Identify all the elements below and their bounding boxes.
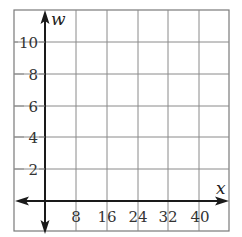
x-tick-32: 32: [158, 208, 177, 226]
x-tick-16: 16: [97, 208, 116, 226]
horizontal-grid-lines: [14, 42, 229, 169]
x-axis-label: x: [216, 178, 226, 198]
y-tick-8: 8: [28, 66, 38, 84]
vertical-grid-lines: [76, 10, 199, 231]
y-tick-10: 10: [19, 34, 38, 52]
x-tick-labels: 8 16 24 32 40: [71, 208, 209, 226]
plot-border: [14, 10, 229, 231]
x-axis: [15, 197, 229, 206]
y-tick-2: 2: [28, 161, 38, 179]
x-tick-24: 24: [128, 208, 147, 226]
y-tick-6: 6: [28, 98, 38, 116]
x-tick-40: 40: [190, 208, 209, 226]
coordinate-grid: 10 8 6 4 2 8 16 24 32 40 w x: [0, 0, 242, 237]
y-tick-4: 4: [28, 129, 38, 147]
y-axis-label: w: [51, 9, 66, 29]
x-tick-8: 8: [71, 208, 81, 226]
